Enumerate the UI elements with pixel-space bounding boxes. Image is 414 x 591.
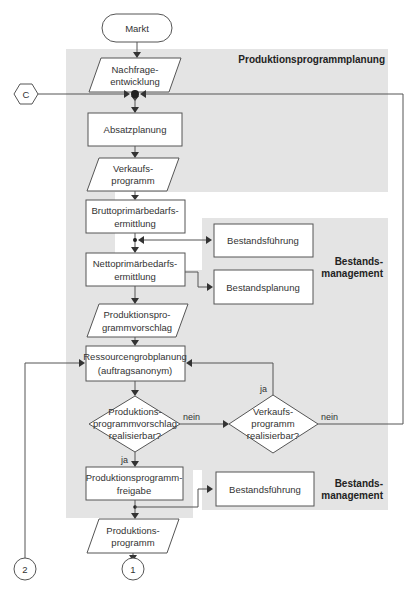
node-vorschlag-line1: Produktionspro- — [103, 309, 170, 320]
region-title-produktionsprogrammplanung: Produktionsprogrammplanung — [238, 54, 385, 65]
node-nachfrage-line1: Nachfrage- — [112, 64, 159, 75]
node-verkaufsprogramm-line1: Verkaufs- — [113, 163, 153, 174]
edge-label-verkauf-ja: ja — [259, 384, 267, 394]
region-title-bestands-2b: management — [321, 490, 383, 501]
decision-verkauf-line1: Verkaufs- — [253, 406, 293, 417]
region-title-bestands-2a: Bestands- — [335, 478, 383, 489]
edge-label-vorschlag-nein: nein — [183, 412, 200, 422]
node-verkaufsprogramm-line2: programm — [111, 175, 154, 186]
node-absatzplanung-label: Absatzplanung — [104, 124, 167, 135]
flowchart: Produktionsprogrammplanung Bestands- man… — [0, 0, 414, 591]
region-title-bestands-1b: management — [321, 268, 383, 279]
node-ressourcen-line1: Ressourcengrobplanung — [83, 351, 187, 362]
node-netto-line2: ermittlung — [114, 271, 156, 282]
node-vorschlag-line2: grammvorschlag — [102, 322, 172, 333]
edge-label-verkauf-nein: nein — [321, 412, 338, 422]
decision-vorschlag-line3: realisierbar? — [109, 430, 161, 441]
node-freigabe-line2: freigabe — [117, 485, 151, 496]
node-brutto-line1: Bruttoprimärbedarfs- — [91, 205, 178, 216]
junction-dot — [131, 90, 139, 98]
node-bestandsfuehrung-1-label: Bestandsführung — [227, 235, 299, 246]
node-bestandsplanung-label: Bestandsplanung — [226, 282, 299, 293]
decision-verkauf-line3: realisierbar? — [247, 430, 299, 441]
node-ressourcen-line2: (auftragsanonym) — [98, 365, 172, 376]
node-markt-label: Markt — [125, 23, 149, 34]
node-produktionsprogramm-line1: Produktions- — [106, 525, 159, 536]
connector-2-label: 2 — [22, 564, 27, 575]
connector-c-label: C — [23, 89, 30, 100]
node-freigabe-line1: Produktionsprogramm- — [86, 472, 183, 483]
node-produktionsprogramm-line2: programm — [111, 537, 154, 548]
decision-vorschlag-line2: programmvorschlag — [93, 418, 177, 429]
decision-vorschlag-line1: Produktions- — [108, 406, 161, 417]
node-nachfrage-line2: entwicklung — [110, 76, 160, 87]
node-brutto-line2: ermittlung — [114, 218, 156, 229]
connector-1-label: 1 — [130, 564, 135, 575]
node-netto-line1: Nettoprimärbedarfs- — [93, 258, 177, 269]
node-bestandsfuehrung-2-label: Bestandsführung — [229, 484, 301, 495]
decision-verkauf-line2: programm — [251, 418, 294, 429]
region-title-bestands-1a: Bestands- — [335, 256, 383, 267]
edge-label-vorschlag-ja: ja — [120, 455, 128, 465]
